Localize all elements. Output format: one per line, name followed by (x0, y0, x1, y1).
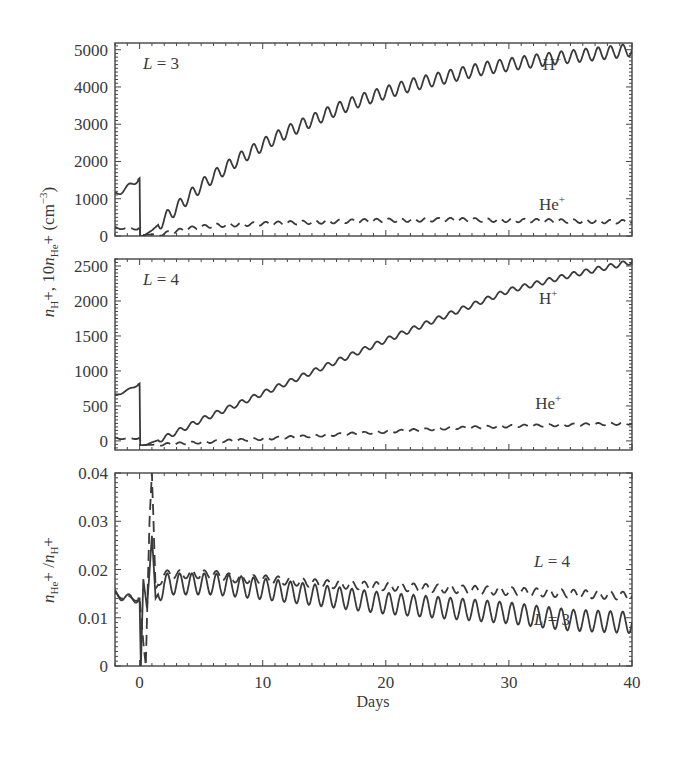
y-tick-label: 0 (100, 432, 109, 451)
x-tick-label: 40 (624, 673, 641, 692)
y-tick-label: 5000 (74, 41, 108, 60)
series-label: L = 4 (533, 552, 571, 571)
panel-1: 010002000300040005000L = 3H+He+ (74, 41, 632, 246)
y-tick-label: 0.01 (78, 609, 108, 628)
y-tick-label: 1000 (74, 362, 108, 381)
panel-label: L = 4 (142, 270, 180, 289)
y-axis-label-top: nH+, 10nHe+ (cm−3) (37, 187, 60, 318)
svg-text:nH+, 10nHe+ (cm−3): nH+, 10nHe+ (cm−3) (37, 187, 60, 318)
y-tick-label: 0.04 (78, 464, 108, 483)
y-axis-label-bottom: nHe+ /nH+ (39, 537, 60, 603)
panels: 010002000300040005000L = 3H+He+050010001… (74, 41, 641, 692)
svg-text:nHe+ /nH+: nHe+ /nH+ (39, 537, 60, 603)
y-tick-label: 0.03 (78, 512, 108, 531)
series-label: He+ (539, 193, 565, 214)
y-tick-label: 2000 (74, 292, 108, 311)
panel-2: 05001000150020002500L = 4H+He+ (74, 257, 632, 451)
x-tick-label: 0 (135, 673, 144, 692)
panel-3: 00.010.020.030.04010203040L = 4L = 3 (78, 464, 640, 692)
y-tick-label: 500 (83, 397, 109, 416)
y-tick-label: 4000 (74, 78, 108, 97)
y-tick-label: 1500 (74, 327, 108, 346)
y-tick-label: 2000 (74, 152, 108, 171)
x-tick-label: 30 (500, 673, 517, 692)
y-tick-label: 1000 (74, 190, 108, 209)
x-tick-label: 20 (377, 673, 394, 692)
figure: 010002000300040005000L = 3H+He+050010001… (0, 0, 676, 757)
series-he- (115, 422, 632, 445)
y-tick-label: 2500 (74, 257, 108, 276)
series-label: L = 3 (533, 610, 570, 629)
x-axis-label: Days (357, 693, 390, 711)
y-tick-label: 0 (100, 227, 109, 246)
x-tick-label: 10 (254, 673, 271, 692)
series-label: He+ (535, 392, 561, 413)
panel-label: L = 3 (142, 54, 179, 73)
series-label: H+ (539, 287, 558, 308)
y-tick-label: 3000 (74, 115, 108, 134)
series-label: H+ (543, 53, 562, 74)
y-tick-label: 0.02 (78, 561, 108, 580)
y-tick-label: 0 (100, 657, 109, 676)
